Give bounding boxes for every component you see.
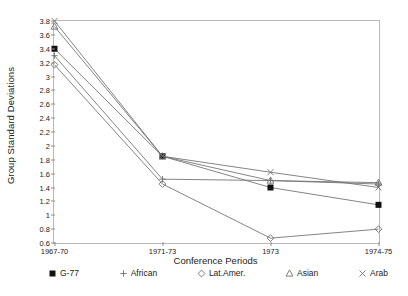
y-axis-tick-label: 2.8: [40, 86, 54, 95]
y-axis-tick-label: 3: [46, 72, 54, 81]
legend-item-arab[interactable]: Arab: [358, 268, 388, 278]
chart-legend: G-77AfricanLat.Amer.AsianArab: [48, 268, 388, 278]
data-point-filled-square: [268, 185, 274, 191]
y-axis-tick-label: 1.2: [40, 197, 54, 206]
series-line-asian: [55, 27, 379, 183]
series-line-lat-amer-: [55, 65, 379, 238]
y-axis-tick-label: 1.8: [40, 155, 54, 164]
y-axis-tick-label: 3.2: [40, 58, 54, 67]
y-axis-tick-label: 3.8: [40, 17, 54, 26]
y-axis-tick-label: 1: [46, 211, 54, 220]
series-line-arab: [55, 21, 379, 188]
x-axis-title: Conference Periods: [53, 255, 378, 266]
y-axis-tick-label: 2: [46, 141, 54, 150]
data-point-cross: [360, 270, 366, 276]
x-axis-tick: [54, 242, 55, 246]
y-axis-tick-label: 2.4: [40, 114, 54, 123]
data-point-triangle: [286, 269, 293, 275]
legend-item-label: Arab: [370, 268, 388, 278]
plot-area: 0.60.811.21.41.61.822.22.42.62.833.23.43…: [53, 20, 380, 244]
legend-item-g-77[interactable]: G-77: [48, 268, 79, 278]
diamond-icon: [197, 269, 206, 278]
filled-square-icon: [48, 269, 57, 278]
cross-icon: [358, 269, 367, 278]
legend-item-label: Lat.Amer.: [209, 268, 245, 278]
legend-item-african[interactable]: African: [119, 268, 157, 278]
x-axis-tick: [378, 242, 379, 246]
y-axis-title: Group Standard Deviations: [6, 66, 17, 183]
y-axis-tick-label: 2.6: [40, 100, 54, 109]
series-line-african: [55, 56, 379, 184]
x-axis-tick: [162, 242, 163, 246]
legend-item-label: G-77: [60, 268, 79, 278]
legend-item-label: African: [131, 268, 157, 278]
y-axis-tick-label: 3.6: [40, 30, 54, 39]
data-point-diamond: [198, 270, 205, 277]
chart-figure: Group Standard Deviations 0.60.811.21.41…: [0, 0, 408, 296]
data-point-plus: [120, 270, 126, 276]
triangle-icon: [285, 269, 294, 278]
data-point-filled-square: [50, 270, 56, 276]
y-axis-tick-label: 2.2: [40, 128, 54, 137]
y-axis-tick-label: 0.8: [40, 225, 54, 234]
y-axis-tick-label: 1.4: [40, 183, 54, 192]
legend-item-label: Asian: [297, 268, 318, 278]
y-axis-title-wrap: Group Standard Deviations: [0, 0, 22, 250]
series-layer: [54, 21, 379, 243]
y-axis-tick-label: 1.6: [40, 169, 54, 178]
legend-item-lat-amer-[interactable]: Lat.Amer.: [197, 268, 245, 278]
data-point-filled-square: [376, 202, 382, 208]
x-axis-tick: [270, 242, 271, 246]
plus-icon: [119, 269, 128, 278]
y-axis-tick-label: 3.4: [40, 44, 54, 53]
legend-item-asian[interactable]: Asian: [285, 268, 318, 278]
